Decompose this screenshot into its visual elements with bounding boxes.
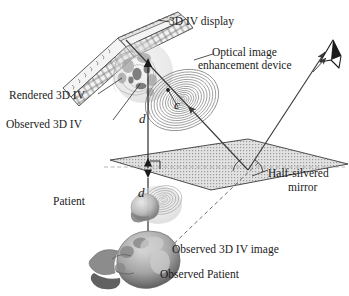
- label-observed-patient: Observed Patient: [160, 268, 239, 281]
- label-observed-3d-iv: Observed 3D IV: [6, 118, 82, 131]
- label-optical-device-line2: enhancement device: [198, 59, 292, 72]
- label-mirror-line2: mirror: [288, 181, 317, 194]
- label-dimension-c: c: [174, 98, 180, 111]
- label-mirror-line1: Half-silvered: [268, 167, 329, 180]
- label-dimension-d-upper: d: [139, 112, 146, 125]
- label-patient: Patient: [53, 195, 85, 208]
- label-3d-iv-display: 3D IV display: [169, 15, 234, 28]
- figure-canvas: 3D IV display Optical image enhancement …: [0, 0, 349, 296]
- label-optical-device-line1: Optical image: [212, 46, 277, 59]
- label-observed-3d-iv-image: Observed 3D IV image: [172, 243, 279, 256]
- label-dimension-d-lower: d: [138, 186, 145, 199]
- arrow-mirror-up: [144, 170, 152, 179]
- label-rendered-3d-iv: Rendered 3D IV: [9, 89, 85, 102]
